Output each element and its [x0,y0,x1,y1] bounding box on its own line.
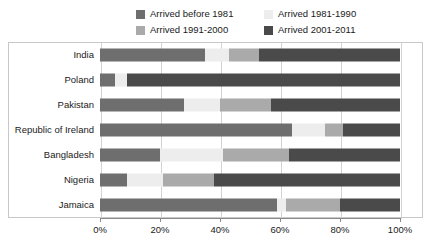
bar-segment[interactable] [343,124,400,137]
x-tick-mark [400,218,401,222]
chart-legend: Arrived before 1981Arrived 1981-1990Arri… [136,6,404,38]
legend-entry[interactable]: Arrived 2001-2011 [264,22,404,38]
legend-entry[interactable]: Arrived before 1981 [136,6,264,22]
bar-row[interactable] [100,48,400,61]
category-label: Poland [64,75,94,85]
x-axis-line [100,218,400,219]
bar-segment[interactable] [214,174,400,187]
bar-segment[interactable] [100,48,205,61]
category-axis: IndiaPolandPakistanRepublic of IrelandBa… [8,42,100,218]
bar-row[interactable] [100,73,400,86]
legend-label: Arrived before 1981 [150,9,233,19]
bar-segment[interactable] [100,73,115,86]
bar-segment[interactable] [100,174,127,187]
bar-segment[interactable] [115,73,127,86]
category-label: Republic of Ireland [15,125,94,135]
bar-row[interactable] [100,149,400,162]
legend-label: Arrived 1991-2000 [150,25,228,35]
bar-segment[interactable] [325,124,343,137]
x-tick-mark [100,218,101,222]
bar-row[interactable] [100,98,400,111]
x-tick-mark [160,218,161,222]
bar-segment[interactable] [100,98,184,111]
legend-entry[interactable]: Arrived 1991-2000 [136,22,264,38]
legend-swatch-icon [136,26,145,35]
bar-segment[interactable] [286,199,340,212]
bar-segment[interactable] [220,98,271,111]
category-label: Bangladesh [44,150,94,160]
x-tick-label: 80% [330,225,349,235]
bar-segment[interactable] [127,73,400,86]
gridline [401,43,402,219]
bars-area [100,42,400,218]
x-tick-mark [340,218,341,222]
legend-swatch-icon [264,10,273,19]
bar-row[interactable] [100,174,400,187]
legend-swatch-icon [136,10,145,19]
bar-segment[interactable] [127,174,163,187]
bar-segment[interactable] [184,98,220,111]
x-tick-label: 0% [93,225,107,235]
bar-segment[interactable] [259,48,400,61]
category-label: Nigeria [64,176,94,186]
bar-segment[interactable] [160,149,223,162]
bar-segment[interactable] [271,98,400,111]
bar-segment[interactable] [205,48,229,61]
bar-segment[interactable] [340,199,400,212]
bar-segment[interactable] [277,199,286,212]
bar-segment[interactable] [223,149,289,162]
bar-segment[interactable] [100,149,160,162]
x-tick-label: 60% [270,225,289,235]
legend-swatch-icon [264,26,273,35]
bar-segment[interactable] [100,199,277,212]
category-label: Jamaica [59,201,94,211]
bar-segment[interactable] [292,124,325,137]
bar-segment[interactable] [289,149,400,162]
x-tick-mark [280,218,281,222]
stacked-bar-chart: Arrived before 1981Arrived 1981-1990Arri… [0,0,431,246]
category-label: India [73,50,94,60]
bar-segment[interactable] [163,174,214,187]
legend-entry[interactable]: Arrived 1981-1990 [264,6,404,22]
x-tick-mark [220,218,221,222]
category-label: Pakistan [58,100,94,110]
x-tick-label: 100% [388,225,412,235]
bar-segment[interactable] [229,48,259,61]
bar-row[interactable] [100,124,400,137]
legend-label: Arrived 2001-2011 [278,25,355,35]
bar-row[interactable] [100,199,400,212]
x-tick-label: 20% [150,225,169,235]
legend-label: Arrived 1981-1990 [278,9,356,19]
x-tick-label: 40% [210,225,229,235]
bar-segment[interactable] [100,124,292,137]
